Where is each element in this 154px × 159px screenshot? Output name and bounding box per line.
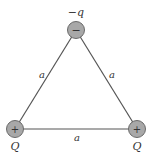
- triangle-sides: [15, 30, 137, 129]
- side-right-label: a: [109, 69, 115, 80]
- charge-bottom-right-sign: +: [133, 124, 141, 135]
- side-left-label: a: [39, 69, 45, 80]
- charge-top: −: [68, 22, 85, 39]
- charge-bottom-right-label: Q: [132, 140, 141, 153]
- charge-bottom-left: +: [7, 121, 24, 138]
- side-right: [76, 30, 137, 129]
- side-bottom-label: a: [74, 132, 80, 143]
- charge-top-label: −q: [68, 6, 84, 19]
- side-left: [15, 30, 76, 129]
- charge-top-sign: −: [71, 24, 80, 37]
- triangle-diagram: − + + −q Q Q a a a: [0, 0, 154, 159]
- charge-bottom-left-sign: +: [11, 124, 19, 135]
- charge-bottom-left-label: Q: [10, 140, 19, 153]
- charge-bottom-right: +: [129, 121, 146, 138]
